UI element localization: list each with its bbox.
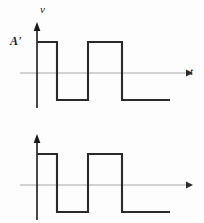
square-wave-current	[37, 154, 170, 212]
voltage-waveform-svg	[0, 0, 204, 111]
y-axis-label-voltage: v	[40, 4, 45, 15]
current-waveform-svg	[0, 112, 204, 223]
x-axis-label-voltage: t	[190, 66, 193, 77]
time-axis-arrow-current	[186, 182, 193, 189]
value-axis-arrow-voltage	[34, 22, 41, 31]
square-wave-voltage	[37, 42, 170, 100]
value-axis-arrow-current	[34, 134, 41, 143]
chart-panel-voltage: v t A'	[0, 0, 204, 111]
chart-panel-current: i t B'	[0, 112, 204, 223]
amplitude-label-voltage: A'	[10, 35, 21, 47]
